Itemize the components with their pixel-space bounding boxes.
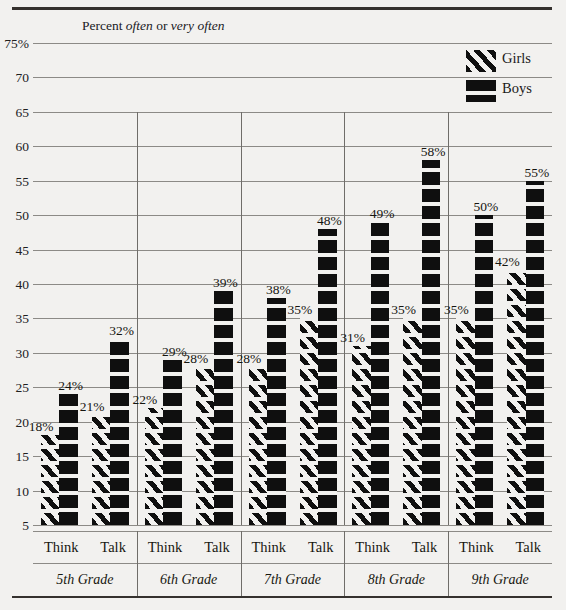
band-divider xyxy=(448,531,449,596)
legend-label-boys: Boys xyxy=(502,80,532,97)
legend-label-girls: Girls xyxy=(502,50,531,67)
think-talk-cell: ThinkTalk xyxy=(137,531,241,563)
bottom-rule xyxy=(12,596,552,598)
bar-boys-6th-grade-talk xyxy=(214,291,233,525)
y-tick-label: 35 xyxy=(16,312,30,326)
bar-value-label: 49% xyxy=(362,207,402,221)
x-label-talk: Talk xyxy=(516,539,542,556)
y-tick-label: 25 xyxy=(16,381,30,395)
chart-title: Percent often or very often xyxy=(82,18,224,34)
bar-value-label: 48% xyxy=(309,214,349,228)
x-label-talk: Talk xyxy=(204,539,230,556)
think-talk-cell: ThinkTalk xyxy=(33,531,137,563)
group-divider xyxy=(241,112,242,525)
chart-title-em1: often xyxy=(126,18,153,33)
gridline-60 xyxy=(33,146,552,147)
y-tick-label: 40 xyxy=(16,278,30,292)
x-label-talk: Talk xyxy=(308,539,334,556)
x-label-think: Think xyxy=(148,539,183,556)
bar-value-label: 35% xyxy=(436,303,476,317)
bar-value-label: 35% xyxy=(280,303,320,317)
bar-value-label: 28% xyxy=(176,352,216,366)
bar-girls-9th-grade-think xyxy=(456,318,475,525)
bar-boys-8th-grade-talk xyxy=(422,160,441,525)
chart-figure: Percent often or very often 75%706560555… xyxy=(0,0,566,610)
bar-boys-8th-grade-think xyxy=(371,222,390,525)
bar-value-label: 32% xyxy=(102,324,142,338)
bar-value-label: 55% xyxy=(517,166,557,180)
grade-label: 7th Grade xyxy=(241,572,345,588)
think-talk-cell: ThinkTalk xyxy=(448,531,552,563)
bar-value-label: 35% xyxy=(384,303,424,317)
gridline-5 xyxy=(33,525,552,526)
y-tick-label: 75% xyxy=(4,37,29,51)
y-tick-label: 45 xyxy=(16,244,30,258)
bar-value-label: 22% xyxy=(125,393,165,407)
grade-label: 9th Grade xyxy=(448,572,552,588)
y-tick-label: 50 xyxy=(16,209,30,223)
chart-title-prefix: Percent xyxy=(82,18,126,33)
chart-legend: Girls Boys xyxy=(466,48,562,108)
gridline-65 xyxy=(33,112,552,113)
band-divider xyxy=(137,531,138,596)
think-talk-cell: ThinkTalk xyxy=(241,531,345,563)
grade-label-row: 5th Grade6th Grade7th Grade8th Grade9th … xyxy=(33,563,552,596)
think-talk-cell: ThinkTalk xyxy=(344,531,448,563)
bar-value-label: 39% xyxy=(205,276,245,290)
x-label-talk: Talk xyxy=(100,539,126,556)
bar-boys-5th-grade-think xyxy=(59,394,78,525)
bar-value-label: 31% xyxy=(333,331,373,345)
bar-value-label: 18% xyxy=(21,420,61,434)
bar-value-label: 28% xyxy=(229,352,269,366)
bar-value-label: 42% xyxy=(487,255,527,269)
band-divider xyxy=(344,531,345,596)
bar-boys-7th-grade-talk xyxy=(318,229,337,525)
x-label-think: Think xyxy=(251,539,286,556)
x-label-think: Think xyxy=(355,539,390,556)
legend-item-girls: Girls xyxy=(466,48,562,78)
grade-label: 6th Grade xyxy=(137,572,241,588)
bar-girls-9th-grade-talk xyxy=(507,270,526,525)
group-divider xyxy=(137,112,138,525)
grade-cell: 8th Grade xyxy=(344,563,448,596)
bar-value-label: 38% xyxy=(258,283,298,297)
y-axis-tick-labels: 75%706560555045403530252015105 xyxy=(0,40,33,530)
grade-cell: 5th Grade xyxy=(33,563,137,596)
top-rule xyxy=(12,7,552,10)
legend-item-boys: Boys xyxy=(466,78,562,108)
bar-boys-6th-grade-think xyxy=(163,360,182,525)
chart-title-em2: very often xyxy=(171,18,225,33)
bar-boys-9th-grade-talk xyxy=(526,181,545,525)
boys-swatch-icon xyxy=(466,80,496,102)
bar-value-label: 58% xyxy=(413,145,453,159)
bar-girls-6th-grade-talk xyxy=(196,367,215,525)
y-tick-label: 60 xyxy=(16,140,30,154)
gridline-75 xyxy=(33,43,552,44)
plot-area: 18%24%21%32%22%29%28%39%28%38%35%48%31%4… xyxy=(33,40,552,530)
bar-girls-8th-grade-think xyxy=(352,346,371,525)
group-divider xyxy=(344,112,345,525)
bar-girls-8th-grade-talk xyxy=(403,318,422,525)
y-tick-label: 65 xyxy=(16,106,30,120)
think-talk-label-row: ThinkTalkThinkTalkThinkTalkThinkTalkThin… xyxy=(33,531,552,563)
x-label-think: Think xyxy=(459,539,494,556)
bar-girls-7th-grade-think xyxy=(249,367,268,525)
grade-label: 5th Grade xyxy=(33,572,137,588)
bar-girls-5th-grade-talk xyxy=(92,415,111,525)
x-label-talk: Talk xyxy=(412,539,438,556)
y-tick-label: 10 xyxy=(16,485,30,499)
y-tick-label: 70 xyxy=(16,71,30,85)
group-divider xyxy=(448,112,449,525)
bar-girls-6th-grade-think xyxy=(145,408,164,525)
bar-boys-5th-grade-talk xyxy=(110,339,129,525)
bar-value-label: 21% xyxy=(72,400,112,414)
grade-cell: 9th Grade xyxy=(448,563,552,596)
chart-title-mid: or xyxy=(153,18,171,33)
grade-cell: 7th Grade xyxy=(241,563,345,596)
y-tick-label: 55 xyxy=(16,175,30,189)
gridline-55 xyxy=(33,181,552,182)
y-tick-label: 5 xyxy=(22,519,29,533)
bar-girls-5th-grade-think xyxy=(41,435,60,525)
grade-label: 8th Grade xyxy=(344,572,448,588)
band-divider xyxy=(241,531,242,596)
